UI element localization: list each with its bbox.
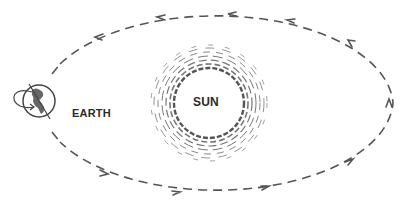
earth-label: EARTH xyxy=(72,107,111,119)
orbit-path xyxy=(52,16,393,190)
earth-globe xyxy=(23,84,55,119)
sun-label: SUN xyxy=(193,95,219,109)
